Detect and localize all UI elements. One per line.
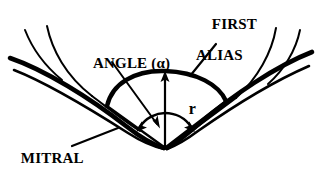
label-first-alias-line1: FIRST (212, 16, 257, 32)
label-mitral-leaflet-line2: LEAFLET (5, 182, 84, 183)
label-angle-text: ANGLE (α) (93, 55, 170, 71)
figure-canvas: FIRST ALIAS ANGLE (α) MITRAL LEAFLET r (0, 0, 320, 183)
label-mitral-leaflet: MITRAL LEAFLET (5, 136, 84, 183)
label-first-alias-line2: ALIAS (196, 48, 257, 63)
label-mitral-leaflet-line1: MITRAL (21, 150, 84, 166)
label-first-alias: FIRST ALIAS (196, 2, 257, 94)
label-angle: ANGLE (α) (78, 41, 170, 87)
label-radius: r (172, 85, 196, 134)
label-radius-text: r (189, 100, 196, 117)
